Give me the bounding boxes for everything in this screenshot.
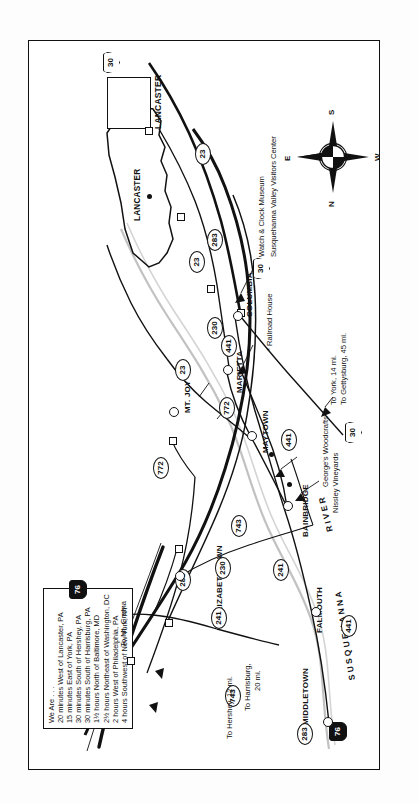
direction-label-gettysburg: To Gettysburg, 45 mi. xyxy=(339,333,348,405)
rotated-map-canvas: We Are . . . 20 minutes West of Lancaste… xyxy=(29,41,379,769)
poi-dot-georges-woodcrafts xyxy=(269,452,274,457)
route-441-road xyxy=(235,317,329,723)
route-shield-230-top: 230 xyxy=(207,317,223,339)
info-line-3: 30 minutes South of Hershey, PA xyxy=(74,594,83,723)
junction-marker xyxy=(145,127,153,135)
route-shield-283-top: 283 xyxy=(207,229,223,251)
city-node-marietta xyxy=(223,365,233,375)
poi-label-nissley-vineyards: Nissley Vineyards xyxy=(331,453,340,513)
lancaster-city-box xyxy=(107,77,151,129)
direction-label-york: To York, 14 mi. xyxy=(329,355,338,405)
junction-marker xyxy=(207,285,215,293)
info-line-4: 30 minutes South of Harrisburg, PA xyxy=(83,594,92,723)
poi-label-georges-woodcrafts: George's Woodcrafts xyxy=(321,416,330,487)
route-shield-23-low: 23 xyxy=(175,359,191,381)
poi-label-visitors-center: Susquehanna Valley Visitors Center xyxy=(269,136,278,257)
info-line-5: 1½ hours North of Baltimore, MD xyxy=(92,594,101,723)
map-page: We Are . . . 20 minutes West of Lancaste… xyxy=(0,0,419,804)
info-heading: We Are . . . xyxy=(47,594,56,723)
route-shield-241-lower: 241 xyxy=(273,559,289,581)
city-node-mt-joy xyxy=(169,407,179,417)
city-node-maytown xyxy=(247,431,257,441)
map-frame-border: We Are . . . 20 minutes West of Lancaste… xyxy=(28,40,380,770)
compass-rose: N E S W xyxy=(295,119,371,195)
route-shield-743-mid: 743 xyxy=(231,515,247,537)
compass-rose-glyph xyxy=(295,119,371,195)
info-line-1: 20 minutes West of Lancaster, PA xyxy=(56,594,65,723)
route-shield-441-bainbridge: 441 xyxy=(281,429,297,451)
route-shield-23-lancaster: 23 xyxy=(195,143,211,165)
city-label-marietta: MARIETTA xyxy=(235,351,244,393)
route-shield-283-left: 283 xyxy=(297,723,313,745)
route-shield-441-falmouth: 441 xyxy=(341,615,357,637)
county-inset-label: LANCASTER xyxy=(133,169,142,221)
direction-label-hershey: To Hershey, 12 mi. xyxy=(225,676,234,739)
compass-label-east: E xyxy=(283,155,292,161)
city-node-elizabethtown xyxy=(175,571,185,581)
junction-marker xyxy=(169,437,177,445)
junction-marker xyxy=(175,545,183,553)
compass-label-north: N xyxy=(327,201,336,207)
direction-label-harrisburg-line1: To Harrisburg, xyxy=(243,663,252,711)
city-label-columbia: COLUMBIA xyxy=(245,272,254,317)
compass-label-west: W xyxy=(373,153,380,161)
route-shield-23-mid: 23 xyxy=(189,251,205,273)
route-shield-772-lower: 772 xyxy=(219,397,235,419)
junction-marker xyxy=(165,619,173,627)
city-label-maytown: MAYTOWN xyxy=(261,410,270,453)
info-line-6: 2½ hours Northeast of Washington, DC xyxy=(102,594,111,723)
county-seat-dot xyxy=(147,194,152,199)
direction-label-mt-gretna: To Mt. Gretna xyxy=(119,601,128,647)
compass-label-south: S xyxy=(327,109,336,115)
poi-label-railroad-house: * Railroad House xyxy=(265,294,274,351)
city-node-bainbridge xyxy=(283,501,293,511)
junction-marker xyxy=(127,657,135,665)
route-shield-interstate-76-top: 76 xyxy=(69,580,87,599)
city-node-columbia xyxy=(233,311,243,321)
route-shield-241-upper: 241 xyxy=(211,607,227,629)
poi-dot-nissley-vineyards xyxy=(287,482,292,487)
junction-marker xyxy=(177,213,185,221)
info-line-2: 15 minutes East of York, PA xyxy=(65,594,74,723)
poi-label-watch-clock-museum: Watch & Clock Museum xyxy=(257,176,266,257)
city-node-falmouth xyxy=(311,607,321,617)
lancaster-city-label: LANCASTER xyxy=(153,75,163,129)
city-label-bainbridge: BAINBRIDGE xyxy=(301,484,310,537)
direction-arrows xyxy=(107,293,331,713)
route-shield-441-marietta: 441 xyxy=(221,335,237,357)
city-label-middletown: MIDDLETOWN xyxy=(301,668,310,725)
city-node-middletown xyxy=(323,717,333,727)
city-label-mt-joy: MT. JOY xyxy=(183,380,192,413)
susquehanna-river-shape xyxy=(121,229,329,749)
route-230-road xyxy=(167,195,256,623)
route-shield-772-upper: 772 xyxy=(153,457,169,479)
route-shield-230-mid: 230 xyxy=(215,557,231,579)
direction-label-harrisburg-line2: 20 mi. xyxy=(253,670,262,691)
